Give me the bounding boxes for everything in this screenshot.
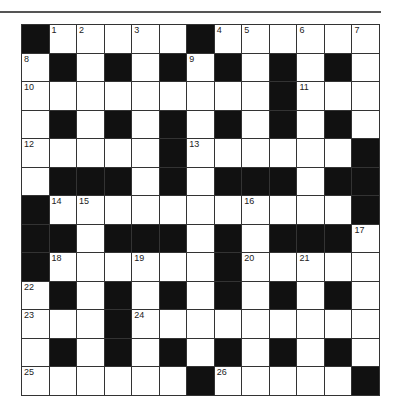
crossword-cell[interactable] xyxy=(297,282,324,310)
crossword-cell[interactable] xyxy=(242,225,269,253)
crossword-cell[interactable] xyxy=(187,253,214,281)
crossword-cell[interactable] xyxy=(132,196,159,224)
crossword-cell[interactable] xyxy=(242,310,269,338)
crossword-cell[interactable] xyxy=(132,367,159,395)
crossword-cell[interactable]: 23 xyxy=(22,310,49,338)
crossword-cell[interactable] xyxy=(270,310,297,338)
crossword-cell[interactable]: 25 xyxy=(22,367,49,395)
crossword-cell[interactable] xyxy=(270,253,297,281)
crossword-cell[interactable] xyxy=(352,310,379,338)
crossword-cell[interactable]: 17 xyxy=(352,225,379,253)
crossword-cell[interactable] xyxy=(160,25,187,53)
crossword-cell[interactable] xyxy=(215,139,242,167)
crossword-cell[interactable] xyxy=(325,367,352,395)
crossword-cell[interactable] xyxy=(187,168,214,196)
crossword-cell[interactable] xyxy=(160,82,187,110)
crossword-cell[interactable]: 21 xyxy=(297,253,324,281)
crossword-cell[interactable]: 18 xyxy=(50,253,77,281)
crossword-cell[interactable]: 5 xyxy=(242,25,269,53)
crossword-cell[interactable] xyxy=(187,111,214,139)
crossword-cell[interactable] xyxy=(77,310,104,338)
crossword-cell[interactable] xyxy=(132,339,159,367)
crossword-cell[interactable] xyxy=(22,168,49,196)
crossword-cell[interactable] xyxy=(242,282,269,310)
crossword-cell[interactable] xyxy=(77,111,104,139)
crossword-cell[interactable] xyxy=(215,310,242,338)
crossword-cell[interactable] xyxy=(105,139,132,167)
crossword-cell[interactable] xyxy=(77,139,104,167)
crossword-cell[interactable] xyxy=(187,225,214,253)
crossword-cell[interactable]: 3 xyxy=(132,25,159,53)
crossword-cell[interactable]: 11 xyxy=(297,82,324,110)
crossword-cell[interactable] xyxy=(77,82,104,110)
crossword-cell[interactable] xyxy=(160,196,187,224)
crossword-cell[interactable] xyxy=(325,25,352,53)
crossword-cell[interactable] xyxy=(187,82,214,110)
crossword-cell[interactable] xyxy=(77,225,104,253)
crossword-cell[interactable]: 6 xyxy=(297,25,324,53)
crossword-cell[interactable] xyxy=(132,282,159,310)
crossword-cell[interactable] xyxy=(270,25,297,53)
crossword-cell[interactable] xyxy=(242,367,269,395)
crossword-cell[interactable] xyxy=(242,339,269,367)
crossword-cell[interactable] xyxy=(187,310,214,338)
crossword-cell[interactable]: 7 xyxy=(352,25,379,53)
crossword-cell[interactable] xyxy=(352,111,379,139)
crossword-cell[interactable]: 20 xyxy=(242,253,269,281)
crossword-cell[interactable] xyxy=(160,253,187,281)
crossword-cell[interactable] xyxy=(270,367,297,395)
crossword-cell[interactable] xyxy=(50,310,77,338)
crossword-cell[interactable]: 26 xyxy=(215,367,242,395)
crossword-cell[interactable] xyxy=(77,54,104,82)
crossword-cell[interactable] xyxy=(215,82,242,110)
crossword-cell[interactable]: 2 xyxy=(77,25,104,53)
crossword-cell[interactable] xyxy=(297,139,324,167)
crossword-cell[interactable] xyxy=(297,111,324,139)
crossword-cell[interactable]: 16 xyxy=(242,196,269,224)
crossword-cell[interactable]: 12 xyxy=(22,139,49,167)
crossword-cell[interactable] xyxy=(77,367,104,395)
crossword-cell[interactable] xyxy=(215,196,242,224)
crossword-cell[interactable] xyxy=(132,54,159,82)
crossword-cell[interactable]: 22 xyxy=(22,282,49,310)
crossword-cell[interactable] xyxy=(77,282,104,310)
crossword-cell[interactable] xyxy=(297,310,324,338)
crossword-cell[interactable] xyxy=(352,54,379,82)
crossword-cell[interactable] xyxy=(242,82,269,110)
crossword-cell[interactable] xyxy=(50,82,77,110)
crossword-cell[interactable] xyxy=(77,253,104,281)
crossword-cell[interactable]: 9 xyxy=(187,54,214,82)
crossword-cell[interactable] xyxy=(352,282,379,310)
crossword-cell[interactable] xyxy=(105,82,132,110)
crossword-cell[interactable] xyxy=(22,111,49,139)
crossword-cell[interactable]: 24 xyxy=(132,310,159,338)
crossword-cell[interactable] xyxy=(50,367,77,395)
crossword-cell[interactable] xyxy=(77,339,104,367)
crossword-cell[interactable] xyxy=(270,196,297,224)
crossword-cell[interactable] xyxy=(242,111,269,139)
crossword-cell[interactable] xyxy=(297,196,324,224)
crossword-cell[interactable]: 4 xyxy=(215,25,242,53)
crossword-cell[interactable] xyxy=(132,82,159,110)
crossword-cell[interactable] xyxy=(132,111,159,139)
crossword-cell[interactable] xyxy=(105,367,132,395)
crossword-cell[interactable] xyxy=(160,367,187,395)
crossword-cell[interactable]: 10 xyxy=(22,82,49,110)
crossword-cell[interactable] xyxy=(325,139,352,167)
crossword-cell[interactable] xyxy=(325,253,352,281)
crossword-cell[interactable] xyxy=(242,54,269,82)
crossword-cell[interactable] xyxy=(50,139,77,167)
crossword-cell[interactable] xyxy=(22,339,49,367)
crossword-cell[interactable] xyxy=(352,253,379,281)
crossword-cell[interactable] xyxy=(325,310,352,338)
crossword-cell[interactable] xyxy=(160,310,187,338)
crossword-cell[interactable] xyxy=(297,168,324,196)
crossword-cell[interactable] xyxy=(297,54,324,82)
crossword-cell[interactable] xyxy=(105,253,132,281)
crossword-cell[interactable] xyxy=(187,282,214,310)
crossword-cell[interactable] xyxy=(297,367,324,395)
crossword-cell[interactable] xyxy=(132,139,159,167)
crossword-cell[interactable] xyxy=(105,25,132,53)
crossword-cell[interactable]: 15 xyxy=(77,196,104,224)
crossword-cell[interactable]: 19 xyxy=(132,253,159,281)
